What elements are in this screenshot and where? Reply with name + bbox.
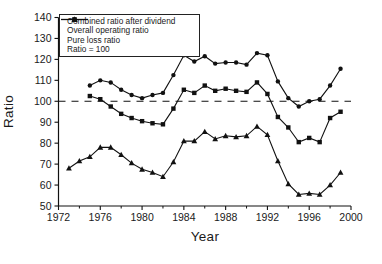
- x-tick-label: 1976: [89, 211, 113, 223]
- y-tick-label: 140: [34, 11, 52, 23]
- circle-marker: [213, 61, 217, 65]
- x-tick-label: 1992: [256, 211, 280, 223]
- square-marker: [213, 89, 217, 93]
- square-marker: [307, 136, 311, 140]
- x-tick-label: 1980: [130, 211, 154, 223]
- triangle-marker: [275, 158, 281, 163]
- circle-marker: [317, 97, 321, 101]
- circle-marker: [129, 93, 133, 97]
- square-marker: [150, 121, 154, 125]
- square-marker: [317, 140, 321, 144]
- x-axis-title: Year: [58, 229, 352, 244]
- circle-marker: [150, 93, 154, 97]
- square-marker: [255, 80, 259, 84]
- circle-marker: [192, 59, 196, 63]
- square-marker: [129, 116, 133, 120]
- triangle-marker: [139, 166, 145, 171]
- circle-marker: [140, 96, 144, 100]
- square-marker: [98, 97, 102, 101]
- triangle-marker: [338, 169, 344, 174]
- y-tick-label: 120: [34, 53, 52, 65]
- triangle-marker: [202, 129, 208, 134]
- dashed-line-icon: [60, 15, 90, 24]
- legend: Combined ratio after dividend Overall op…: [59, 14, 200, 57]
- square-marker: [265, 92, 269, 96]
- y-tick-label: 130: [34, 32, 52, 44]
- square-marker: [286, 125, 290, 129]
- y-tick-label: 70: [40, 158, 52, 170]
- series-line: [90, 53, 341, 106]
- y-tick-label: 100: [34, 95, 52, 107]
- circle-marker: [307, 99, 311, 103]
- square-marker: [234, 89, 238, 93]
- y-axis-ticks: 5060708090100110120130140: [34, 11, 59, 212]
- y-tick-label: 110: [35, 74, 52, 86]
- square-marker: [161, 122, 165, 126]
- square-marker: [109, 104, 113, 108]
- square-marker: [140, 119, 144, 123]
- y-axis-title: Ratio: [1, 64, 16, 160]
- triangle-marker: [171, 159, 177, 164]
- x-axis-ticks: 19721976198019841988199219962000: [47, 206, 363, 223]
- square-marker: [192, 91, 196, 95]
- x-tick-label: 1996: [298, 211, 322, 223]
- series-overall-operating-ratio: [88, 80, 343, 144]
- circle-marker: [234, 60, 238, 64]
- square-marker: [223, 87, 227, 91]
- triangle-marker: [254, 123, 260, 128]
- square-marker: [244, 90, 248, 94]
- triangle-marker: [285, 181, 291, 186]
- triangle-marker: [118, 152, 124, 157]
- square-marker: [297, 140, 301, 144]
- circle-marker: [328, 83, 332, 87]
- x-tick-label: 1984: [172, 211, 196, 223]
- circle-marker: [244, 62, 248, 66]
- circle-marker: [223, 60, 227, 64]
- x-tick-label: 1988: [214, 211, 238, 223]
- square-marker: [203, 83, 207, 87]
- y-tick-label: 90: [40, 116, 52, 128]
- series-pure-loss-ratio: [66, 123, 343, 196]
- circle-marker: [171, 73, 175, 77]
- circle-marker: [265, 53, 269, 57]
- square-marker: [119, 112, 123, 116]
- x-tick-label: 2000: [339, 211, 363, 223]
- x-tick-label: 1972: [47, 211, 71, 223]
- circle-marker: [88, 83, 92, 87]
- circle-marker: [338, 67, 342, 71]
- square-marker: [171, 106, 175, 110]
- legend-label: Ratio = 100: [64, 45, 110, 54]
- square-marker: [88, 94, 92, 98]
- line-chart-figure: 5060708090100110120130140197219761980198…: [0, 0, 382, 264]
- square-marker: [338, 110, 342, 114]
- circle-marker: [109, 80, 113, 84]
- circle-marker: [255, 51, 259, 55]
- circle-marker: [98, 78, 102, 82]
- square-marker: [328, 116, 332, 120]
- circle-marker: [119, 88, 123, 92]
- circle-marker: [161, 91, 165, 95]
- y-tick-label: 50: [40, 200, 52, 212]
- circle-marker: [297, 104, 301, 108]
- triangle-marker: [66, 165, 72, 170]
- series-line: [69, 126, 341, 194]
- y-tick-label: 60: [40, 179, 52, 191]
- square-marker: [182, 88, 186, 92]
- circle-marker: [203, 54, 207, 58]
- circle-marker: [286, 96, 290, 100]
- legend-item-ref-line: Ratio = 100: [64, 45, 196, 54]
- series-combined-ratio-after-dividend: [88, 51, 343, 109]
- square-marker: [276, 115, 280, 119]
- circle-marker: [276, 79, 280, 83]
- y-tick-label: 80: [40, 137, 52, 149]
